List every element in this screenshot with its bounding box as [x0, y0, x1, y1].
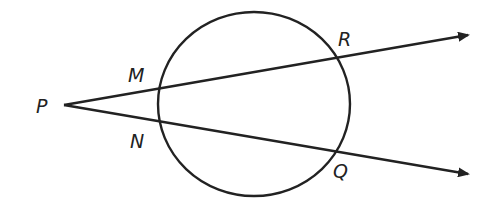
- label-Q: Q: [333, 160, 348, 182]
- label-M: M: [128, 64, 144, 86]
- label-P: P: [36, 95, 48, 117]
- label-R: R: [338, 28, 351, 50]
- secant-ray-PR: [64, 35, 468, 105]
- label-N: N: [130, 130, 144, 152]
- secant-ray-PQ: [64, 105, 468, 174]
- secant-diagram: P M N R Q: [0, 0, 491, 222]
- circle: [158, 12, 350, 196]
